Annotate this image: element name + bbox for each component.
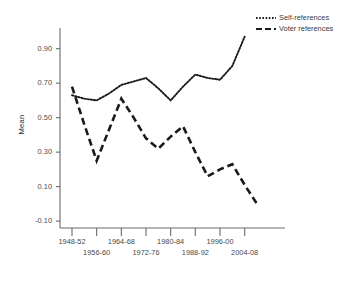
y-axis-title: Mean: [17, 95, 26, 155]
series-line-self-references: [72, 37, 245, 101]
x-tick-label: 2004-08: [222, 248, 268, 257]
legend-label-self-references: Self-references: [279, 12, 329, 23]
legend-label-voter-references: Voter references: [279, 23, 333, 34]
legend-swatch-dotted: [256, 14, 276, 22]
series-line-voter-references: [72, 87, 257, 204]
y-tick-label: 0.90: [22, 44, 52, 53]
y-tick-label: 0.70: [22, 78, 52, 87]
x-tick-label: 1948-52: [49, 237, 95, 246]
legend-item-self-references: Self-references: [256, 12, 333, 23]
y-tick-label: 0.50: [22, 113, 52, 122]
y-tick-label: 0.30: [22, 147, 52, 156]
x-tick-label: 1956-60: [74, 248, 120, 257]
y-tick-label: -0.10: [22, 216, 52, 225]
x-tick-label: 1972-76: [123, 248, 169, 257]
x-tick-label: 1988-92: [172, 248, 218, 257]
x-tick-label: 1964-68: [98, 237, 144, 246]
y-tick-marks: [56, 49, 60, 221]
y-tick-label: 0.10: [22, 182, 52, 191]
chart-legend: Self-references Voter references: [256, 12, 333, 34]
x-tick-label: 1996-00: [197, 237, 243, 246]
legend-item-voter-references: Voter references: [256, 23, 333, 34]
line-chart: Mean 0.900.700.500.300.10-0.10 1948-5219…: [0, 0, 363, 286]
legend-swatch-dashed: [256, 25, 276, 33]
series-lines: [72, 37, 257, 204]
x-tick-label: 1980-84: [148, 237, 194, 246]
x-tick-marks: [72, 228, 245, 236]
